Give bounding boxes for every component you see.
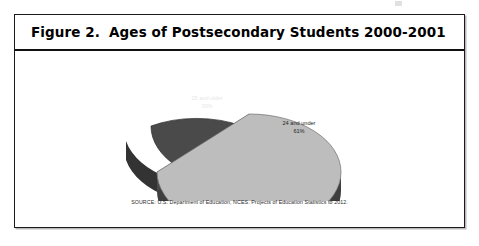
pie-slice-25-and-older-value: 39% bbox=[201, 103, 212, 109]
figure-title-text: Ages of Postsecondary Students 2000-2001 bbox=[109, 24, 446, 40]
source-note: SOURCE: U.S. Department of Education, NC… bbox=[15, 199, 464, 205]
pie-chart-svg: 25 and older 39% 24 and under 61% bbox=[15, 51, 464, 201]
scan-artifact bbox=[395, 1, 402, 6]
pie-chart: 25 and older 39% 24 and under 61% bbox=[15, 51, 464, 201]
figure-number: Figure 2. bbox=[31, 24, 100, 40]
figure-frame: Figure 2.Ages of Postsecondary Students … bbox=[14, 14, 465, 228]
pie-slice-25-and-older-label: 25 and older bbox=[191, 95, 222, 101]
figure-title-bar: Figure 2.Ages of Postsecondary Students … bbox=[15, 15, 464, 51]
pie-slice-24-and-under-label: 24 and under bbox=[283, 120, 316, 126]
pie-slice-24-and-under-value: 61% bbox=[293, 128, 304, 134]
page-title: Figure 2.Ages of Postsecondary Students … bbox=[31, 24, 446, 40]
figure-body: 25 and older 39% 24 and under 61% SOURCE… bbox=[15, 51, 464, 226]
